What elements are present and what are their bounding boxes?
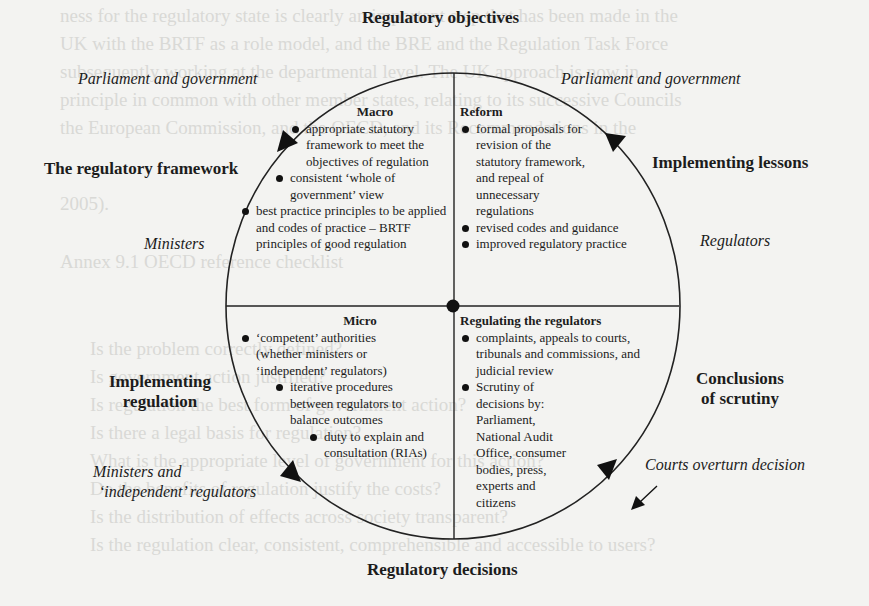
reform-item: improved regulatory practice	[460, 236, 660, 253]
stage-conclusions-of-scrutiny: Conclusions of scrutiny	[675, 369, 805, 409]
macro-item: best practice principles to be applied a…	[240, 203, 456, 253]
quadrant-reform: Reform formal proposals for revision of …	[460, 104, 660, 253]
center-dot-icon	[447, 300, 460, 313]
heading-regulatory-decisions: Regulatory decisions	[367, 560, 518, 580]
stage-conclusions-line2: of scrutiny	[675, 389, 805, 409]
micro-item: duty to explain and consultation (RIAs)	[308, 429, 444, 462]
regulating-item: complaints, appeals to courts, tribunals…	[460, 330, 641, 380]
stage-conclusions-line1: Conclusions	[675, 369, 805, 389]
macro-item: consistent ‘whole of government’ view	[274, 170, 440, 203]
actor-bottom-left-line1: Ministers and	[93, 462, 256, 482]
courts-arrow-line	[640, 486, 657, 502]
quadrant-regulating-title: Regulating the regulators	[460, 313, 640, 330]
actor-regulators: Regulators	[700, 232, 770, 250]
quadrant-reform-title: Reform	[460, 104, 660, 121]
quadrant-regulating-regulators: Regulating the regulators complaints, ap…	[460, 313, 640, 511]
stage-implementing-regulation: Implementing regulation	[100, 372, 220, 412]
actor-ministers-independent-regulators: Ministers and ‘independent’ regulators	[93, 462, 256, 502]
stage-implementing-regulation-line1: Implementing	[100, 372, 220, 392]
micro-item: iterative procedures between regulators …	[274, 379, 430, 429]
actor-ministers: Ministers	[144, 235, 204, 253]
reform-item: formal proposals for revision of the sta…	[460, 121, 596, 220]
stage-regulatory-framework: The regulatory framework	[44, 159, 238, 179]
heading-regulatory-objectives: Regulatory objectives	[362, 8, 519, 28]
actor-parliament-government-right: Parliament and government	[561, 70, 741, 88]
actor-bottom-left-line2: ‘independent’ regulators	[93, 482, 256, 502]
micro-item: ‘competent’ authorities (whether ministe…	[240, 330, 416, 380]
macro-item: appropriate statutory framework to meet …	[290, 121, 456, 171]
reform-item: revised codes and guidance	[460, 220, 660, 237]
arrow-bottom-left-icon	[280, 460, 301, 482]
stage-implementing-lessons: Implementing lessons	[652, 153, 808, 173]
stage-implementing-regulation-line2: regulation	[100, 392, 220, 412]
actor-parliament-government-left: Parliament and government	[78, 70, 258, 88]
quadrant-micro: Micro ‘competent’ authorities (whether m…	[240, 313, 450, 462]
quadrant-micro-title: Micro	[240, 313, 450, 330]
cycle-diagram	[0, 0, 869, 606]
quadrant-macro-title: Macro	[240, 104, 450, 121]
actor-courts-overturn-decision: Courts overturn decision	[645, 456, 805, 474]
quadrant-macro: Macro appropriate statutory framework to…	[240, 104, 450, 253]
regulating-item: Scrutiny of decisions by: Parliament, Na…	[460, 379, 576, 511]
